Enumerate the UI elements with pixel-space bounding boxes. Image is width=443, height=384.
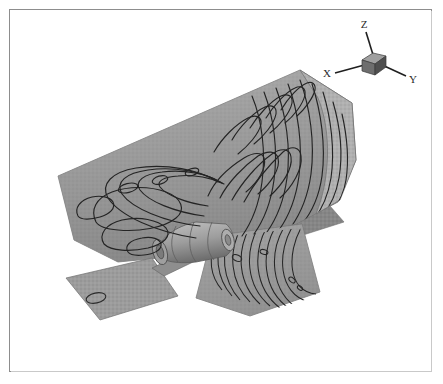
origin-cube-icon — [362, 53, 386, 75]
y-axis-label: Y — [409, 73, 417, 85]
figure-canvas: Z X Y — [0, 0, 443, 384]
x-axis-label: X — [323, 67, 331, 79]
z-axis-label: Z — [361, 18, 368, 30]
orientation-axes: Z X Y — [318, 18, 423, 96]
